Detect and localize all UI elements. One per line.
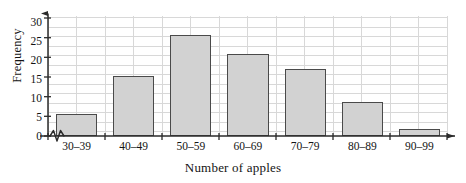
bar-slot: [334, 16, 391, 136]
plot-area: [48, 16, 448, 136]
x-tick-label: 70–79: [277, 140, 334, 158]
bar-70-79[interactable]: [285, 69, 326, 137]
y-axis-tick-labels: 30 25 20 15 10 5 0: [20, 0, 42, 183]
x-tick-label: 40–49: [105, 140, 162, 158]
bar-80-89[interactable]: [342, 102, 383, 136]
bar-slot: [277, 16, 334, 136]
bar-series: [48, 16, 448, 136]
bar-30-39[interactable]: [56, 114, 97, 137]
x-axis-title: Number of apples: [0, 160, 466, 176]
y-tick-label: 30: [20, 17, 42, 29]
x-tick-label: 80–89: [334, 140, 391, 158]
x-tick-label: 90–99: [391, 140, 448, 158]
bar-slot: [48, 16, 105, 136]
bar-slot: [391, 16, 448, 136]
y-tick-label: 5: [20, 112, 42, 124]
histogram-figure: Frequency 30 25 20 15 10 5 0: [0, 0, 466, 183]
y-tick-label: 20: [20, 55, 42, 67]
x-tick-label: 60–69: [219, 140, 276, 158]
x-tick-label: 30–39: [48, 140, 105, 158]
bar-slot: [162, 16, 219, 136]
y-tick-label: 10: [20, 93, 42, 105]
bar-50-59[interactable]: [170, 35, 211, 136]
bar-40-49[interactable]: [113, 76, 154, 136]
bar-60-69[interactable]: [227, 54, 268, 137]
bar-slot: [105, 16, 162, 136]
y-tick-label: 0: [20, 131, 42, 143]
y-tick-label: 15: [20, 74, 42, 86]
bar-90-99[interactable]: [399, 129, 440, 137]
x-axis-tick-labels: 30–39 40–49 50–59 60–69 70–79 80–89 90–9…: [48, 140, 448, 158]
y-tick-label: 25: [20, 36, 42, 48]
clipped-caption-strip: [0, 0, 466, 7]
x-tick-label: 50–59: [162, 140, 219, 158]
bar-slot: [219, 16, 276, 136]
